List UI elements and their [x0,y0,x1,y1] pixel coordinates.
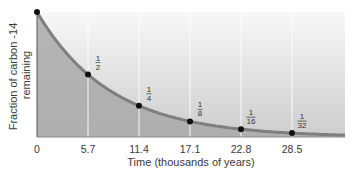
plot-area: 12141811613205.711.417.122.828.5 [34,9,345,155]
fraction-label: 18 [198,100,203,118]
fraction-numerator: 1 [198,100,203,109]
x-tick-label: 22.8 [231,143,252,155]
fraction-label: 14 [147,85,152,103]
y-axis-title: Fraction of carbon -14 remaining [7,20,32,131]
fraction-numerator: 1 [300,112,305,121]
fraction-numerator: 1 [96,54,101,63]
data-point [187,118,193,124]
data-point [136,103,142,109]
fraction-numerator: 1 [249,108,254,117]
fraction-denominator: 4 [147,94,152,103]
fraction-denominator: 16 [247,117,256,126]
fraction-denominator: 8 [198,109,203,118]
x-tick-label: 5.7 [81,143,96,155]
fraction-denominator: 32 [298,121,307,130]
data-point [85,72,91,78]
carbon14-decay-chart: 12141811613205.711.417.122.828.5 Fractio… [0,0,357,179]
data-point [238,126,244,132]
fraction-numerator: 1 [147,85,152,94]
data-point [289,130,295,136]
fraction-denominator: 2 [96,63,101,72]
x-tick-label: 0 [34,143,40,155]
x-tick-label: 28.5 [282,143,303,155]
x-tick-label: 17.1 [180,143,201,155]
data-point [34,9,40,15]
x-tick-label: 11.4 [129,143,149,155]
x-axis-title: Time (thousands of years) [127,156,254,168]
fraction-label: 12 [96,54,101,72]
